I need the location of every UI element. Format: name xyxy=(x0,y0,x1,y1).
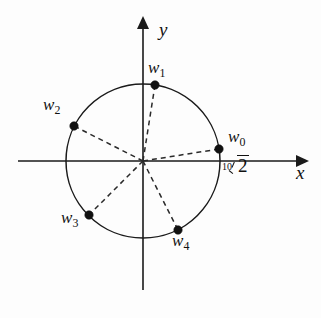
point-label-w3-sub: 3 xyxy=(73,216,79,230)
root-point-w1 xyxy=(151,81,159,89)
root-point-w3 xyxy=(85,211,93,219)
radius-line-w0 xyxy=(143,149,219,161)
point-label-w3-base: w xyxy=(61,208,72,227)
point-label-w4-sub: 4 xyxy=(184,239,190,253)
radius-line-w2 xyxy=(74,126,143,161)
radius-annotation: 10 2 xyxy=(222,164,249,184)
radius-line-w4 xyxy=(143,161,178,230)
point-label-w1-sub: 1 xyxy=(160,66,166,80)
root-point-w0 xyxy=(215,145,223,153)
point-label-w2: w2 xyxy=(43,96,61,117)
math-figure: y x w0 w1 w2 w3 w4 10 2 xyxy=(0,0,321,318)
radius-line-w1 xyxy=(143,85,155,161)
radical-group: 10 2 xyxy=(222,164,249,184)
x-axis-label-text: x xyxy=(296,162,304,183)
root-point-w2 xyxy=(70,122,78,130)
x-axis-label: x xyxy=(296,163,304,182)
y-axis-arrowhead xyxy=(137,16,149,29)
point-label-w3: w3 xyxy=(61,209,79,230)
point-label-w0-sub: 0 xyxy=(240,135,246,149)
point-label-w0: w0 xyxy=(228,128,246,149)
point-label-w4-base: w xyxy=(172,231,183,250)
point-label-w2-base: w xyxy=(43,95,54,114)
y-axis-label-text: y xyxy=(159,19,167,40)
point-label-w1-base: w xyxy=(148,58,159,77)
radical-overbar: 2 xyxy=(237,155,249,175)
point-label-w2-sub: 2 xyxy=(55,103,61,117)
figure-canvas xyxy=(0,0,321,318)
y-axis-label: y xyxy=(159,20,167,39)
point-label-w1: w1 xyxy=(148,59,166,80)
point-label-w0-base: w xyxy=(228,127,239,146)
point-label-w4: w4 xyxy=(172,232,190,253)
radius-line-w3 xyxy=(89,161,143,215)
radicand-value: 2 xyxy=(237,156,249,175)
